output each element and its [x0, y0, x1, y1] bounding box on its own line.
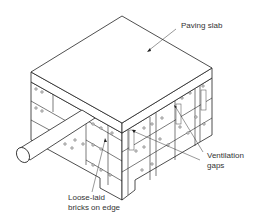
label-ventilation-gaps-line2: gaps	[207, 161, 224, 171]
label-bricks-line2: bricks on edge	[68, 203, 120, 213]
ventilation-gap-1	[129, 130, 134, 150]
ventilation-gap-3	[201, 90, 206, 110]
diagram-canvas	[0, 0, 263, 218]
label-paving-slab: Paving slab	[181, 21, 222, 31]
label-ventilation-gaps-line1: Ventilation	[207, 151, 244, 161]
label-bricks-line1: Loose-laid	[68, 193, 105, 203]
